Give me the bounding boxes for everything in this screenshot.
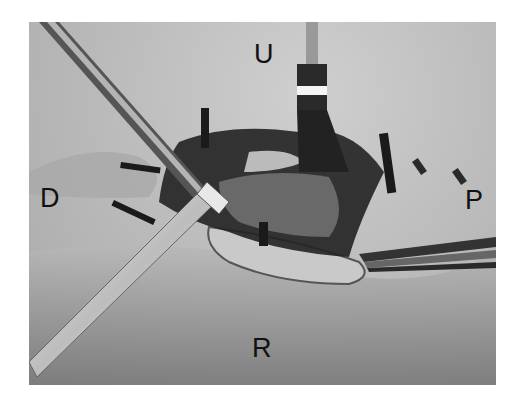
label-right: P (465, 187, 483, 214)
label-bottom: R (252, 335, 272, 362)
surgical-scene-illustration (29, 22, 496, 385)
surgical-photo (29, 22, 496, 385)
label-left: D (40, 185, 60, 212)
label-upper: U (254, 41, 274, 68)
